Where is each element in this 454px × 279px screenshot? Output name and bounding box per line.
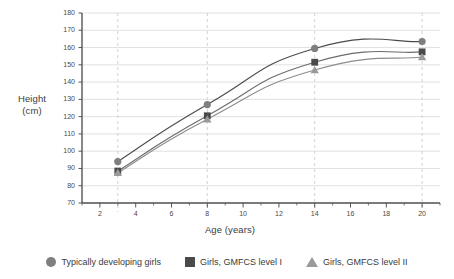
- y-tick-label: 140: [54, 78, 75, 86]
- series-lines: [118, 39, 422, 173]
- x-tick-label: 20: [414, 210, 430, 218]
- legend-item-gmfcs-level-ii: Girls, GMFCS level II: [306, 257, 408, 267]
- y-tick-label: 150: [54, 61, 75, 69]
- y-tick-label: 130: [54, 95, 75, 103]
- axis-lines: [82, 13, 440, 203]
- circle-marker-icon: [46, 257, 56, 267]
- y-tick-label: 90: [54, 164, 75, 172]
- legend-label: Girls, GMFCS level II: [323, 257, 408, 267]
- x-tick-label: 2: [92, 210, 108, 218]
- legend-item-typically-developing-girls: Typically developing girls: [46, 257, 161, 267]
- y-tick-label: 100: [54, 147, 75, 155]
- x-tick-label: 6: [164, 210, 180, 218]
- y-tick-label: 120: [54, 113, 75, 121]
- x-tick-label: 18: [378, 210, 394, 218]
- x-tick-label: 14: [307, 210, 323, 218]
- legend-item-gmfcs-level-i: Girls, GMFCS level I: [185, 257, 282, 267]
- chart-plot-area: [0, 0, 454, 279]
- axis-ticks: [79, 13, 441, 208]
- vertical-dashed-gridlines: [118, 13, 422, 212]
- square-marker-icon: [185, 257, 195, 267]
- triangle-marker-icon: [306, 257, 318, 267]
- x-tick-label: 10: [235, 210, 251, 218]
- chart-legend: Typically developing girls Girls, GMFCS …: [0, 250, 454, 274]
- y-tick-label: 170: [54, 26, 75, 34]
- legend-label: Typically developing girls: [61, 257, 161, 267]
- y-tick-label: 110: [54, 130, 75, 138]
- y-tick-label: 70: [54, 199, 75, 207]
- y-tick-label: 80: [54, 182, 75, 190]
- legend-label: Girls, GMFCS level I: [200, 257, 282, 267]
- y-tick-label: 160: [54, 44, 75, 52]
- x-tick-label: 4: [128, 210, 144, 218]
- y-tick-label: 180: [54, 9, 75, 17]
- horizontal-gridlines: [82, 13, 440, 203]
- x-tick-label: 8: [199, 210, 215, 218]
- growth-chart-figure: Height (cm) Age (years) 7080901001101201…: [0, 0, 454, 279]
- x-tick-label: 16: [343, 210, 359, 218]
- x-tick-label: 12: [271, 210, 287, 218]
